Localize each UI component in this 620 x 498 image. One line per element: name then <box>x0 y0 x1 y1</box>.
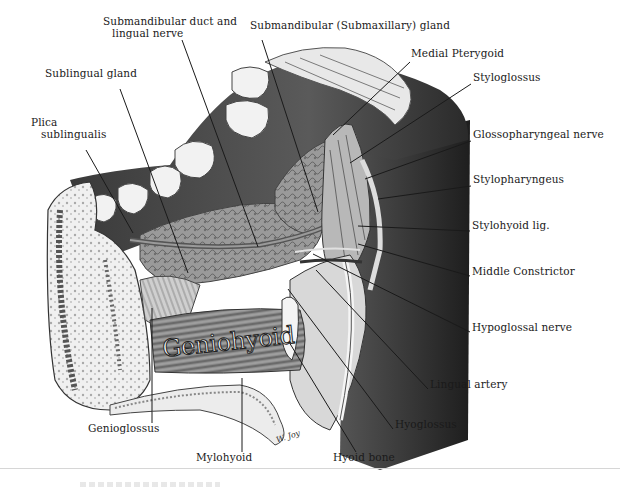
label-hyoid-bone: Hyoid bone <box>333 451 395 463</box>
label-lingual-artery: Lingual artery <box>430 378 508 390</box>
label-genioglossus: Genioglossus <box>88 422 160 434</box>
label-middle-constrictor: Middle Constrictor <box>472 265 575 277</box>
label-plica-line2: sublingualis <box>41 128 106 140</box>
label-styloglossus: Styloglossus <box>473 71 541 83</box>
label-medial-pterygoid: Medial Pterygoid <box>411 47 504 59</box>
label-submandibular-duct-line2: lingual nerve <box>112 27 183 39</box>
faint-caption-smudge <box>80 482 220 487</box>
page-divider <box>0 468 620 469</box>
label-submandibular-duct-line1: Submandibular duct and <box>103 15 237 27</box>
label-stylohyoid-lig: Stylohyoid lig. <box>472 219 550 231</box>
label-hyoglossus: Hyoglossus <box>395 418 457 430</box>
anatomy-figure: Geniohyoid W. Joy Submandibular duct and… <box>0 0 620 498</box>
label-submandibular-gland: Submandibular (Submaxillary) gland <box>250 19 450 31</box>
label-stylopharyngeus: Stylopharyngeus <box>473 173 564 185</box>
label-hypoglossal-nerve: Hypoglossal nerve <box>472 321 572 333</box>
label-plica-line1: Plica <box>31 116 57 128</box>
label-mylohyoid: Mylohyoid <box>196 451 252 463</box>
label-glossopharyngeal-nerve: Glossopharyngeal nerve <box>473 128 604 140</box>
label-sublingual-gland: Sublingual gland <box>45 67 137 79</box>
